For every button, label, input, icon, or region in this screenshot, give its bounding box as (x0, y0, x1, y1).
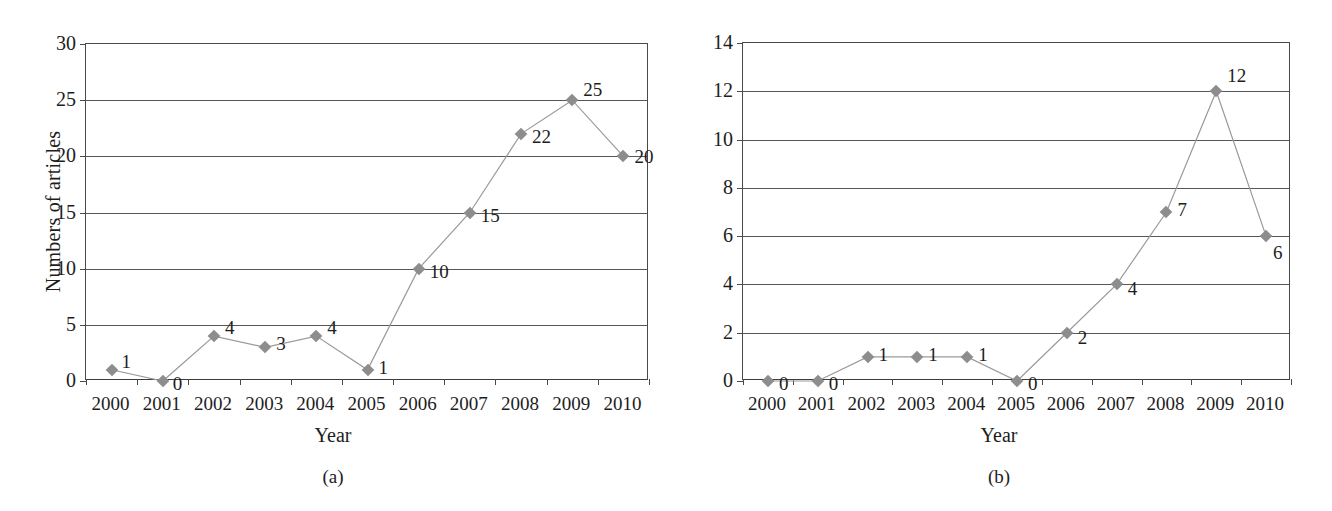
x-tick-label: 2002 (194, 394, 232, 413)
data-point-label: 0 (1028, 374, 1038, 393)
x-axis-title-a: Year (0, 424, 666, 447)
x-tick-label: 2006 (399, 394, 437, 413)
x-tick-label: 2004 (947, 394, 985, 413)
y-tick-label: 30 (56, 33, 76, 53)
data-point-label: 0 (779, 374, 789, 393)
x-tick-label: 2010 (1246, 394, 1284, 413)
y-tick-label: 2 (723, 322, 733, 342)
plot-area-a: 1043411015222520 (85, 43, 648, 380)
x-tick-label: 2004 (296, 394, 334, 413)
chart-panel-a: Numbers of articles 051015202530 1043411… (0, 0, 666, 511)
x-tick-label: 2007 (1097, 394, 1135, 413)
chart-panel-b: Numbers of articles 02468101214 00111024… (666, 0, 1332, 511)
data-point-label: 1 (978, 345, 988, 364)
data-point-label: 4 (225, 318, 235, 337)
x-tick-label: 2009 (552, 394, 590, 413)
data-point-label: 1 (928, 345, 938, 364)
series-line (743, 43, 1291, 381)
y-axis-tick-labels-a: 051015202530 (32, 43, 76, 380)
x-tick-label: 2005 (348, 394, 386, 413)
x-tick-label: 2001 (798, 394, 836, 413)
y-tick-label: 25 (56, 89, 76, 109)
plot-area-b: 001110247126 (742, 42, 1290, 380)
data-point-label: 7 (1177, 200, 1187, 219)
x-tick-label: 2008 (501, 394, 539, 413)
y-tick-label: 14 (713, 32, 733, 52)
y-tick-label: 6 (723, 225, 733, 245)
x-tick-label: 2005 (997, 394, 1035, 413)
data-point-label: 3 (276, 334, 286, 353)
data-point-label: 12 (1227, 66, 1246, 85)
panel-caption-a: (a) (0, 466, 666, 488)
y-tick-label: 0 (723, 370, 733, 390)
data-point-label: 15 (481, 206, 500, 225)
x-tick-label: 2006 (1047, 394, 1085, 413)
x-tick-label: 2000 (748, 394, 786, 413)
y-tick-label: 10 (56, 258, 76, 278)
y-tick-label: 20 (56, 145, 76, 165)
data-point-label: 1 (379, 358, 389, 377)
series-line (86, 44, 649, 381)
x-tick-label: 2002 (848, 394, 886, 413)
x-tick-label: 2010 (603, 394, 641, 413)
x-tick-label: 2007 (450, 394, 488, 413)
x-tick-label: 2008 (1146, 394, 1184, 413)
data-point-label: 0 (829, 374, 839, 393)
panel-caption-b: (b) (666, 466, 1332, 488)
y-tick-label: 12 (713, 80, 733, 100)
y-tick-label: 8 (723, 177, 733, 197)
y-tick-label: 0 (66, 370, 76, 390)
data-point-label: 2 (1078, 328, 1088, 347)
x-tick-label: 2003 (245, 394, 283, 413)
x-axis-title-b: Year (666, 424, 1332, 447)
data-point-label: 22 (532, 127, 551, 146)
x-tick-mark (649, 379, 650, 385)
data-point-label: 4 (1128, 279, 1138, 298)
x-tick-mark (1291, 379, 1292, 385)
x-tick-label: 2009 (1196, 394, 1234, 413)
data-point-label: 1 (879, 345, 889, 364)
y-tick-label: 5 (66, 314, 76, 334)
x-tick-label: 2000 (92, 394, 130, 413)
x-tick-label: 2003 (897, 394, 935, 413)
data-point-label: 25 (583, 80, 602, 99)
y-axis-tick-labels-b: 02468101214 (689, 42, 733, 380)
data-point-label: 4 (327, 318, 337, 337)
data-point-label: 6 (1273, 243, 1283, 262)
y-tick-label: 4 (723, 273, 733, 293)
x-tick-label: 2001 (143, 394, 181, 413)
figure-two-line-charts: Numbers of articles 051015202530 1043411… (0, 0, 1332, 511)
data-point-label: 1 (122, 352, 132, 371)
data-point-label: 10 (430, 262, 449, 281)
data-point-label: 20 (634, 147, 653, 166)
y-tick-label: 15 (56, 202, 76, 222)
y-tick-label: 10 (713, 129, 733, 149)
data-point-label: 0 (173, 374, 183, 393)
